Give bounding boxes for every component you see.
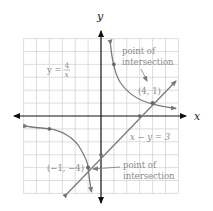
point-label-4-1: (4, 1) — [138, 86, 161, 96]
hyperbola-branch-q3 — [28, 127, 92, 193]
line-eq-label: x − y = 3 — [130, 132, 170, 142]
x-axis-label: x — [194, 110, 201, 123]
graph: x y y = 4 x point of intersection (4, 1)… — [0, 0, 213, 211]
point-label-neg1-neg4: (−1, −4) — [47, 163, 84, 173]
poi-top-arrow — [141, 69, 147, 81]
poi-bot-line2: intersection — [123, 171, 175, 181]
intersection-neg1-neg4 — [86, 166, 90, 170]
hyperbola-label-num: 4 — [65, 61, 70, 70]
poi-top-line2: intersection — [122, 57, 174, 67]
intersection-4-1 — [151, 101, 155, 105]
poi-top-line1: point of — [122, 46, 156, 56]
y-axis-label: y — [96, 10, 104, 23]
point-3-0 — [138, 114, 142, 118]
poi-bot-line1: point of — [123, 160, 157, 170]
hyperbola-label-lhs: y = — [46, 65, 62, 75]
point-neg4-neg1 — [48, 127, 52, 131]
point-0-neg3 — [99, 153, 103, 157]
point-1-4 — [112, 63, 116, 67]
